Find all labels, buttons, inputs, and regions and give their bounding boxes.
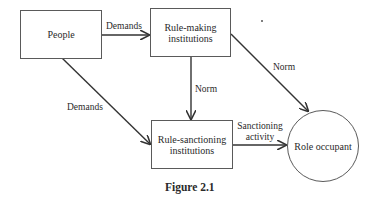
edge-people-to-rule-sanctioning: [62, 58, 150, 144]
node-rule-sanctioning-label-line2: institutions: [170, 145, 214, 156]
edge-label-norm-vertical: Norm: [195, 84, 217, 95]
node-people: People: [20, 10, 102, 59]
node-role-occupant-label: Role occupant: [294, 141, 351, 152]
stray-dot: [261, 20, 263, 22]
figure-caption: Figure 2.1: [165, 181, 215, 193]
node-role-occupant: Role occupant: [287, 110, 359, 182]
edge-label-norm-diagonal: Norm: [273, 62, 295, 73]
edge-rule-making-to-role-occupant: [231, 34, 308, 111]
edge-label-demands-lower: Demands: [67, 102, 103, 113]
node-rule-making-label-line1: Rule-making: [164, 22, 216, 33]
node-rule-sanctioning-institutions: Rule-sanctioning institutions: [151, 120, 233, 169]
edge-label-demands-top: Demands: [106, 21, 142, 32]
node-rule-making-label-line2: institutions: [168, 33, 212, 44]
edge-label-sanctioning-line1: Sanctioning: [236, 121, 284, 132]
node-rule-sanctioning-label-line1: Rule-sanctioning: [158, 134, 226, 145]
edge-label-sanctioning-line2: activity: [236, 132, 284, 143]
node-rule-making-institutions: Rule-making institutions: [150, 8, 231, 57]
node-people-label: People: [47, 29, 74, 40]
edge-label-sanctioning-activity: Sanctioning activity: [236, 121, 284, 143]
